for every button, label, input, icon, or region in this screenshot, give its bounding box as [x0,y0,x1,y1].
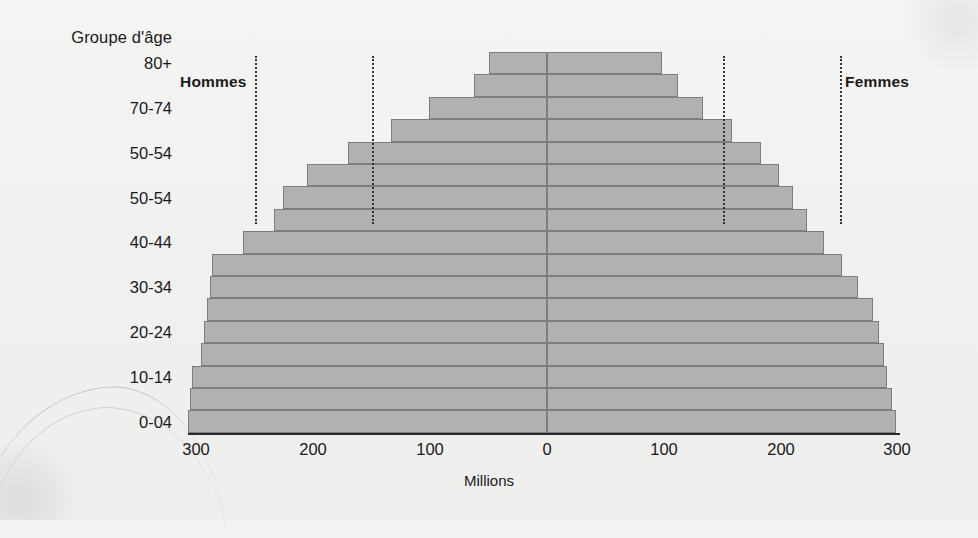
bar-hommes[interactable] [474,74,547,96]
x-axis-tick-label: 300 [182,440,210,459]
pyramid-row [0,74,978,96]
reference-guide-line [372,56,374,224]
bar-femmes[interactable] [547,231,824,253]
pyramid-row [0,209,978,231]
y-axis-tick-label: 0-04 [0,413,172,430]
bar-hommes[interactable] [192,366,547,388]
pyramid-row [0,298,978,320]
bar-hommes[interactable] [243,231,547,253]
y-axis-tick-label: 30-34 [0,279,172,296]
reference-guide-line [840,56,842,224]
y-axis-tick-label: 50-54 [0,145,172,162]
bar-hommes[interactable] [283,186,547,208]
bar-hommes[interactable] [307,164,547,186]
bar-femmes[interactable] [547,74,678,96]
bar-hommes[interactable] [391,119,547,141]
bar-femmes[interactable] [547,186,793,208]
bar-hommes[interactable] [201,343,547,365]
bar-femmes[interactable] [547,343,884,365]
y-axis-tick-label: 50-54 [0,189,172,206]
bar-hommes[interactable] [204,321,547,343]
bar-hommes[interactable] [489,52,548,74]
reference-guide-line [255,56,257,224]
x-axis-title: Millions [0,472,978,489]
series-label-femmes: Femmes [845,73,909,91]
bar-hommes[interactable] [210,276,547,298]
y-axis-tick-label: 80+ [0,55,172,72]
bar-femmes[interactable] [547,321,879,343]
bar-femmes[interactable] [547,298,873,320]
x-axis-tick-label: 300 [883,440,911,459]
bar-hommes[interactable] [212,254,547,276]
bar-femmes[interactable] [547,366,887,388]
bar-femmes[interactable] [547,52,662,74]
x-axis-baseline [188,433,900,435]
bar-femmes[interactable] [547,142,761,164]
reference-guide-line [723,56,725,224]
bar-femmes[interactable] [547,410,896,432]
pyramid-row [0,164,978,186]
y-axis-tick-label: 40-44 [0,234,172,251]
x-axis-tick-label: 200 [299,440,327,459]
pyramid-row [0,388,978,410]
x-axis-tick-label: 100 [416,440,444,459]
pyramid-row [0,119,978,141]
pyramid-row [0,254,978,276]
bar-femmes[interactable] [547,388,892,410]
pyramid-row [0,343,978,365]
bar-femmes[interactable] [547,209,807,231]
bar-femmes[interactable] [547,276,858,298]
bar-femmes[interactable] [547,254,842,276]
bar-hommes[interactable] [188,410,547,432]
bar-hommes[interactable] [207,298,547,320]
x-axis-tick-label: 200 [767,440,795,459]
bar-hommes[interactable] [190,388,547,410]
bar-hommes[interactable] [348,142,547,164]
x-axis-tick-label: 100 [650,440,678,459]
bar-femmes[interactable] [547,97,703,119]
bar-hommes[interactable] [274,209,547,231]
series-label-hommes: Hommes [180,73,247,91]
bar-femmes[interactable] [547,164,779,186]
bar-femmes[interactable] [547,119,732,141]
bar-hommes[interactable] [429,97,547,119]
x-axis-tick-label: 0 [542,440,551,459]
y-axis-tick-label: 70-74 [0,100,172,117]
y-axis-tick-label: 20-24 [0,324,172,341]
y-axis-tick-label: 10-14 [0,369,172,386]
